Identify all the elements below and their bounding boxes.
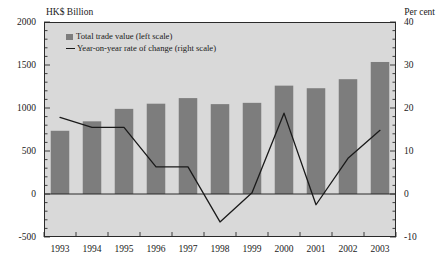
bar-2003 — [371, 62, 390, 194]
legend-bar-label: Total trade value (left scale) — [76, 31, 172, 43]
legend-item-bar: Total trade value (left scale) — [66, 31, 216, 43]
bar-1996 — [147, 104, 166, 194]
left-axis-label-1000: 1000 — [17, 103, 36, 113]
bar-2000 — [275, 86, 294, 194]
bar-2001 — [307, 88, 326, 194]
year-label-2001: 2001 — [307, 244, 326, 254]
right-axis-label--10: -10 — [404, 232, 417, 242]
year-label-1999: 1999 — [243, 244, 262, 254]
year-label-1996: 1996 — [147, 244, 166, 254]
right-axis-label-0: 0 — [404, 189, 409, 199]
left-axis-label-500: 500 — [22, 146, 36, 156]
year-label-2003: 2003 — [371, 244, 390, 254]
bar-1994 — [83, 121, 102, 194]
year-label-1993: 1993 — [51, 244, 70, 254]
year-label-1998: 1998 — [211, 244, 230, 254]
left-axis-label-2000: 2000 — [17, 17, 36, 27]
right-axis-label-10: 10 — [404, 146, 414, 156]
bar-2002 — [339, 79, 358, 194]
bar-1998 — [211, 104, 230, 194]
right-axis-label-20: 20 — [404, 103, 414, 113]
right-axis-label-40: 40 — [404, 17, 414, 27]
bar-1999 — [243, 103, 262, 194]
bar-1995 — [115, 109, 134, 194]
legend-item-line: Year-on-year rate of change (right scale… — [66, 43, 216, 55]
chart-legend: Total trade value (left scale) Year-on-y… — [66, 31, 216, 54]
year-label-1995: 1995 — [115, 244, 134, 254]
year-label-1994: 1994 — [83, 244, 102, 254]
left-axis-label-1500: 1500 — [17, 60, 36, 70]
bar-swatch-icon — [66, 34, 73, 40]
legend-line-label: Year-on-year rate of change (right scale… — [77, 43, 216, 55]
year-label-1997: 1997 — [179, 244, 198, 254]
year-label-2000: 2000 — [275, 244, 294, 254]
trade-value-chart: HK$ Billion Per cent -500050010001500200… — [0, 0, 443, 272]
bar-1997 — [179, 98, 198, 194]
left-axis-label--500: -500 — [19, 232, 36, 242]
year-label-2002: 2002 — [339, 244, 358, 254]
right-axis-label-30: 30 — [404, 60, 414, 70]
left-axis-label-0: 0 — [31, 189, 36, 199]
line-swatch-icon — [66, 48, 75, 49]
bar-1993 — [51, 131, 70, 194]
